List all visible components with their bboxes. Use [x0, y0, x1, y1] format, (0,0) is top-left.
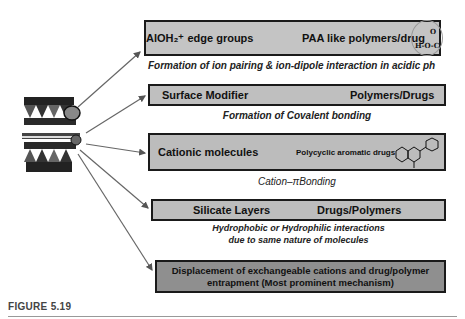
carboxylic-acid-group-icon: O H-O-C: [411, 20, 443, 56]
caption-covalent: Formation of Covalent bonding: [148, 110, 446, 121]
box-text-line2: entrapment (Most prominent mechanism): [172, 277, 430, 289]
mechanism-box-hydrophobic: Silicate Layers Drugs/Polymers: [151, 199, 446, 221]
polycyclic-aromatic-structure-icon: [390, 135, 444, 169]
box-text-line1: Displacement of exchangeable cations and…: [172, 265, 430, 277]
mechanism-box-cation-exchange: Displacement of exchangeable cations and…: [155, 260, 446, 293]
mechanism-box-cation-pi: Cationic molecules Polycyclic aromatic d…: [148, 133, 446, 171]
caption-cation-pi: Cation–πBonding: [148, 176, 446, 187]
box-left-label: Surface Modifier: [162, 89, 248, 101]
box-right-label: PAA like polymers/drug: [302, 32, 425, 44]
mechanism-box-covalent: Surface Modifier Polymers/Drugs: [148, 84, 446, 106]
box-right-label: Drugs/Polymers: [317, 204, 401, 216]
box-left-label: Cationic molecules: [158, 146, 258, 158]
caption-hydrophobic-line2: due to same nature of molecules: [151, 235, 446, 245]
caption-ion-pairing: Formation of ion pairing & ion-dipole in…: [148, 60, 435, 71]
caption-hydrophobic-line1: Hydrophobic or Hydrophilic interactions: [151, 223, 446, 233]
box-left-label: AlOH₂⁺ edge groups: [146, 32, 253, 45]
figure-label: FIGURE 5.19: [8, 301, 71, 312]
mechanism-box-ion-pairing: AlOH₂⁺ edge groups PAA like polymers/dru…: [144, 20, 441, 56]
divider: [8, 316, 457, 317]
box-left-label: Silicate Layers: [193, 204, 270, 216]
box-right-label: Polymers/Drugs: [350, 89, 434, 101]
box-right-label: Polycyclic aromatic drugs: [296, 148, 395, 157]
clay-layer-structure-icon: [22, 97, 81, 172]
